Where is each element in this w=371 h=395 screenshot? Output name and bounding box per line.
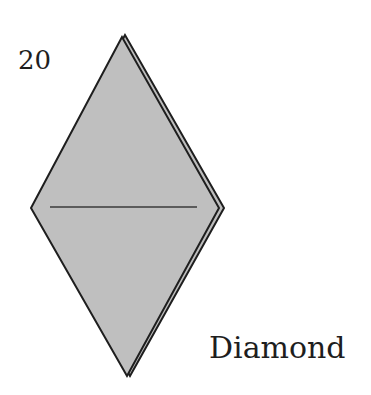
figure-caption: Diamond bbox=[209, 330, 346, 365]
